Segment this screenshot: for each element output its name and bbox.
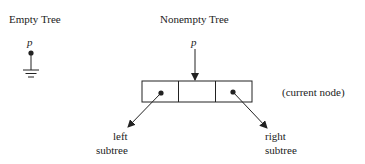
current-node-label: (current node): [282, 86, 345, 99]
right-subtree-arrow: [230, 89, 267, 128]
null-pointer-ground-icon: [23, 50, 39, 77]
left-subtree-arrow: [128, 90, 164, 127]
right-subtree-label-line1: right: [265, 130, 286, 143]
empty-tree-pointer-label: p: [27, 36, 33, 49]
empty-tree-title: Empty Tree: [9, 13, 61, 26]
nonempty-tree-title: Nonempty Tree: [160, 13, 229, 26]
nonempty-tree-pointer-label: p: [191, 36, 197, 49]
left-subtree-label-line2: subtree: [96, 144, 128, 157]
right-subtree-label-line2: subtree: [265, 144, 297, 157]
left-subtree-label-line1: left: [113, 130, 128, 143]
